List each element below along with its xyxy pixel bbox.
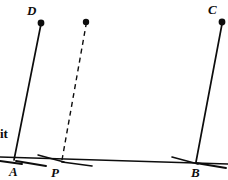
angle-mark-P-right xyxy=(62,162,92,166)
segment-B-to-C xyxy=(196,24,222,162)
label-A: A xyxy=(9,165,18,178)
body-text-fragment: it xyxy=(0,127,8,140)
label-B: B xyxy=(191,166,200,179)
geometry-figure: it D C A P B xyxy=(0,0,228,180)
segment-P-to-apex xyxy=(62,25,86,160)
segment-A-to-D xyxy=(14,24,41,160)
label-D: D xyxy=(27,4,36,17)
point-apex-unlabeled xyxy=(83,19,89,25)
point-D xyxy=(38,20,45,27)
label-P: P xyxy=(51,166,59,179)
label-C: C xyxy=(208,3,217,16)
figure-canvas xyxy=(0,0,228,180)
point-C xyxy=(219,19,226,26)
